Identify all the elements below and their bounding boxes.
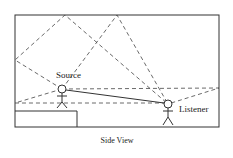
listener-label: Listener: [179, 104, 209, 114]
reflection-paths: [15, 15, 219, 104]
source-figure: [57, 85, 67, 108]
listener-figure: [163, 100, 173, 125]
source-label: Source: [56, 70, 81, 80]
caption: Side View: [101, 136, 134, 145]
platform: [15, 111, 77, 127]
direct-path: [66, 90, 164, 103]
side-view-diagram: Source Listener Side View: [0, 0, 233, 158]
